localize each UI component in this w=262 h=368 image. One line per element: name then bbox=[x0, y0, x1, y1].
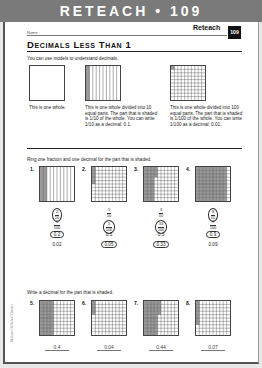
item-1-grid bbox=[39, 166, 75, 202]
title-rule bbox=[27, 51, 242, 52]
item-6-grid bbox=[91, 300, 127, 336]
item-number: 2. bbox=[82, 166, 86, 172]
decimal-choice[interactable]: 0.5 bbox=[98, 232, 120, 237]
item-number: 3. bbox=[134, 166, 138, 172]
model-caption-hundredths: This is one whole divided into 100 equal… bbox=[170, 105, 245, 127]
item-number: 4. bbox=[186, 166, 190, 172]
decimal-choice[interactable]: 0.09 bbox=[202, 242, 224, 247]
section1-instruction: Ring one fraction and one decimal for th… bbox=[27, 157, 151, 163]
decimal-choice[interactable]: 0.05 bbox=[98, 242, 120, 247]
answer-blank[interactable]: 0.07 bbox=[201, 344, 225, 351]
answer-blank[interactable]: 0.4 bbox=[45, 344, 69, 351]
intro-text: You can use models to understand decimal… bbox=[27, 56, 118, 62]
decimal-choice[interactable]: 0.3 bbox=[150, 232, 172, 237]
model-whole bbox=[29, 65, 65, 101]
reteach-label: Reteach bbox=[193, 24, 220, 31]
item-number: 7. bbox=[134, 300, 138, 306]
answer-blank[interactable]: 0.04 bbox=[97, 344, 121, 351]
fraction-choice[interactable]: 510 bbox=[98, 208, 120, 218]
fraction-choice[interactable]: 310 bbox=[150, 208, 172, 218]
answer-blank[interactable]: 0.44 bbox=[149, 344, 173, 351]
lesson-badge: 109 bbox=[228, 26, 241, 39]
item-5-grid bbox=[39, 300, 75, 336]
model-caption-whole: This is one whole. bbox=[29, 105, 79, 111]
decimal-choice[interactable]: 0.2 bbox=[46, 232, 68, 237]
item-number: 6. bbox=[82, 300, 86, 306]
item-7-grid bbox=[143, 300, 179, 336]
item-8-grid bbox=[195, 300, 231, 336]
item-4-grid bbox=[195, 166, 231, 202]
model-caption-tenths: This is one whole divided into 10 equal … bbox=[85, 105, 160, 127]
reteach-band-title: RETEACH • 109 bbox=[0, 0, 262, 22]
publisher-side-text: McGraw-Hill School Division bbox=[10, 297, 14, 342]
decimal-choice[interactable]: 0.33 bbox=[150, 242, 172, 247]
worksheet-page: Name Reteach 109 Decimals Less Than 1 Yo… bbox=[3, 22, 259, 364]
section2-instruction: Write a decimal for the part that is sha… bbox=[27, 290, 113, 296]
page-title: Decimals Less Than 1 bbox=[27, 39, 131, 50]
model-hundredths-grid bbox=[170, 65, 206, 101]
item-number: 5. bbox=[30, 300, 34, 306]
item-number: 1. bbox=[30, 166, 34, 172]
decimal-choice[interactable]: 0.9 bbox=[202, 232, 224, 237]
name-line bbox=[27, 35, 227, 36]
fraction-choice[interactable]: 1100 bbox=[46, 220, 68, 230]
model-tenths-grid bbox=[85, 65, 121, 101]
decimal-choice[interactable]: 0.02 bbox=[46, 242, 68, 247]
item-2-grid bbox=[91, 166, 127, 202]
item-number: 8. bbox=[186, 300, 190, 306]
item-3-grid bbox=[143, 166, 179, 202]
fraction-choice[interactable]: 9100 bbox=[202, 220, 224, 230]
section-rule bbox=[27, 148, 242, 149]
